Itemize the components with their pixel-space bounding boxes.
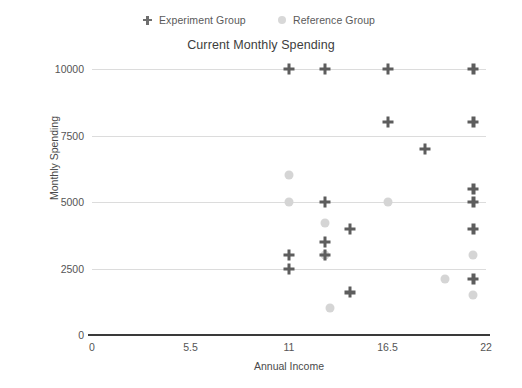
- y-axis-tick-label: 10000: [55, 63, 84, 75]
- data-point-experiment: [468, 197, 479, 208]
- scatter-chart: Experiment Group Reference Group Current…: [0, 0, 522, 388]
- data-point-experiment: [468, 183, 479, 194]
- circle-marker-icon: [278, 16, 286, 24]
- cross-marker-icon: [143, 16, 152, 25]
- legend-label-experiment: Experiment Group: [159, 14, 246, 26]
- y-axis-tick-label: 0: [78, 329, 84, 341]
- y-axis-tick-label: 7500: [61, 130, 84, 142]
- data-point-experiment: [344, 287, 355, 298]
- plot-area: [92, 69, 486, 335]
- data-point-reference: [469, 251, 478, 260]
- x-axis-tick-labels: 05.51116.522: [92, 341, 486, 357]
- x-axis-tick-label: 16.5: [377, 341, 397, 353]
- y-axis-tick-labels: 025005000750010000: [22, 69, 84, 335]
- data-point-experiment: [284, 263, 295, 274]
- x-axis-line: [88, 334, 490, 336]
- data-point-experiment: [319, 236, 330, 247]
- data-point-experiment: [468, 274, 479, 285]
- data-point-experiment: [382, 117, 393, 128]
- x-axis-tick-label: 11: [284, 341, 295, 353]
- x-axis-tick-label: 0: [89, 341, 95, 353]
- x-axis-tick-label: 22: [480, 341, 492, 353]
- y-axis-tick-label: 5000: [61, 196, 84, 208]
- y-axis-tick-label: 2500: [61, 263, 84, 275]
- data-point-reference: [285, 198, 294, 207]
- data-point-experiment: [319, 64, 330, 75]
- data-point-reference: [285, 171, 294, 180]
- chart-legend: Experiment Group Reference Group: [0, 14, 522, 36]
- legend-entry-experiment[interactable]: Experiment Group: [143, 14, 246, 26]
- gridline: [92, 136, 486, 137]
- data-point-experiment: [420, 143, 431, 154]
- data-point-reference: [469, 291, 478, 300]
- data-point-reference: [383, 198, 392, 207]
- legend-entry-reference[interactable]: Reference Group: [278, 14, 375, 26]
- data-point-experiment: [319, 197, 330, 208]
- x-axis-tick-label: 5.5: [183, 341, 198, 353]
- data-point-reference: [440, 275, 449, 284]
- data-point-experiment: [319, 250, 330, 261]
- legend-label-reference: Reference Group: [293, 14, 375, 26]
- x-axis-title: Annual Income: [92, 360, 486, 372]
- data-point-experiment: [468, 117, 479, 128]
- data-point-experiment: [468, 64, 479, 75]
- data-point-experiment: [468, 223, 479, 234]
- data-point-experiment: [344, 223, 355, 234]
- chart-title: Current Monthly Spending: [0, 38, 522, 52]
- data-point-reference: [326, 304, 335, 313]
- data-point-experiment: [284, 64, 295, 75]
- data-point-experiment: [382, 64, 393, 75]
- data-point-reference: [320, 219, 329, 228]
- data-point-experiment: [284, 250, 295, 261]
